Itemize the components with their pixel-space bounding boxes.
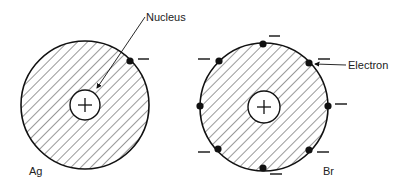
ag-atom: [21, 41, 149, 169]
ag-label: Ag: [29, 166, 42, 177]
nucleus-label: Nucleus: [146, 12, 186, 23]
atom-diagram: [0, 0, 402, 188]
electron-leader-arrow: [315, 64, 346, 65]
electron-label: Electron: [348, 60, 388, 71]
ag-electron: [126, 57, 133, 64]
br-atom: [196, 36, 347, 174]
br-label: Br: [323, 166, 334, 177]
